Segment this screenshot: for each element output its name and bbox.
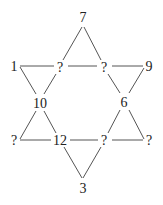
edge-lower-left-inner-to-bottom bbox=[64, 147, 82, 178]
node-lower-left-outer: ? bbox=[11, 133, 17, 148]
edge-mid-left-to-lower-left-inner bbox=[44, 111, 56, 133]
node-upper-right-outer: 9 bbox=[146, 59, 153, 74]
edge-mid-right-to-lower-right-inner bbox=[108, 110, 120, 133]
edge-upper-left-outer-to-mid-left bbox=[20, 67, 36, 94]
edge-mid-right-to-lower-right-outer bbox=[129, 110, 144, 139]
node-lower-right-inner: ? bbox=[101, 133, 107, 148]
node-top: 7 bbox=[80, 10, 87, 25]
edge-upper-right-outer-to-mid-right bbox=[129, 68, 144, 93]
node-mid-left: 10 bbox=[33, 96, 47, 111]
node-lower-right-outer: ? bbox=[146, 133, 152, 148]
edge-upper-right-inner-to-mid-right bbox=[108, 74, 120, 93]
edge-upper-left-inner-to-mid-left bbox=[44, 74, 56, 94]
node-bottom: 3 bbox=[80, 181, 87, 196]
edge-top-to-upper-left-inner bbox=[63, 27, 82, 60]
edge-top-to-upper-right-inner bbox=[84, 27, 101, 60]
node-labels: 7 1 ? ? 9 10 6 ? 12 ? ? 3 bbox=[11, 10, 153, 196]
node-mid-right: 6 bbox=[121, 95, 128, 110]
node-upper-left-inner: ? bbox=[57, 60, 63, 75]
edge-lower-right-inner-to-bottom bbox=[83, 147, 101, 178]
hexagram-diagram: 7 1 ? ? 9 10 6 ? 12 ? ? 3 bbox=[0, 0, 163, 205]
node-upper-left-outer: 1 bbox=[11, 59, 18, 74]
node-upper-right-inner: ? bbox=[101, 60, 107, 75]
edge-mid-left-to-lower-left-outer bbox=[20, 111, 36, 139]
node-lower-left-inner: 12 bbox=[53, 133, 67, 148]
